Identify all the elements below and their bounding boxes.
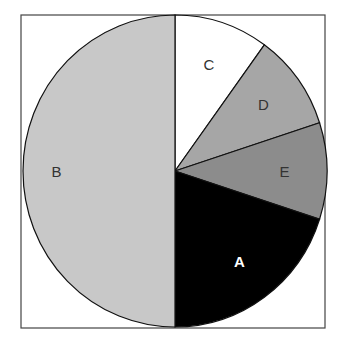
slice-label-b: B: [51, 163, 61, 180]
pie-slice-b: [23, 15, 175, 327]
slice-label-a: A: [234, 253, 245, 270]
slice-label-c: C: [203, 56, 214, 73]
slice-label-d: D: [258, 96, 269, 113]
pie-chart: CDEAB: [0, 0, 343, 347]
slice-label-e: E: [279, 163, 289, 180]
